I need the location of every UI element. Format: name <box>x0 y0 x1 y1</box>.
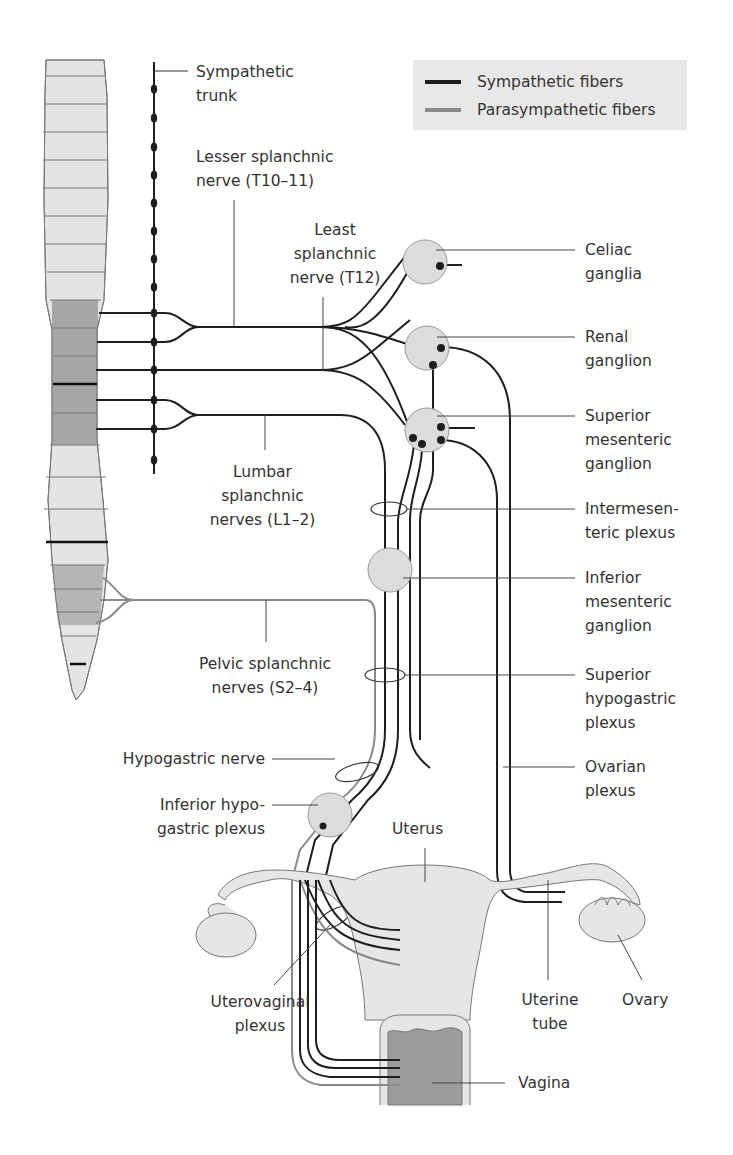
label-line: Hypogastric nerve <box>90 747 265 771</box>
parasympathetic-swatch <box>425 108 461 112</box>
label-line: splanchnic <box>195 484 330 508</box>
label-line: Pelvic splanchnic <box>185 652 345 676</box>
ganglia <box>308 240 449 837</box>
label-line: Lumbar <box>195 460 330 484</box>
label-line: nerve (T10–11) <box>196 169 333 193</box>
label-inferior-mesenteric-ganglion: Inferior mesenteric ganglion <box>585 566 672 638</box>
label-uterine-tube: Uterine tube <box>510 988 590 1036</box>
label-superior-hypogastric-plexus: Superior hypogastric plexus <box>585 663 676 735</box>
legend-label: Parasympathetic fibers <box>477 101 656 119</box>
label-superior-mesenteric-ganglion: Superior mesenteric ganglion <box>585 404 672 476</box>
label-line: ganglion <box>585 349 652 373</box>
label-line: Uterovaginal <box>195 990 325 1014</box>
label-least-splanchnic-nerve: Least splanchnic nerve (T12) <box>270 218 400 290</box>
label-line: nerve (T12) <box>270 266 400 290</box>
label-line: gastric plexus <box>130 817 265 841</box>
label-line: teric plexus <box>585 521 679 545</box>
label-line: trunk <box>196 84 294 108</box>
label-line: tube <box>510 1012 590 1036</box>
label-line: Ovarian <box>585 755 646 779</box>
label-lesser-splanchnic-nerve: Lesser splanchnic nerve (T10–11) <box>196 145 333 193</box>
label-line: hypogastric <box>585 687 676 711</box>
label-line: Uterine <box>510 988 590 1012</box>
label-line: plexus <box>195 1014 325 1038</box>
label-line: mesenteric <box>585 590 672 614</box>
label-hypogastric-nerve: Hypogastric nerve <box>90 747 265 771</box>
label-celiac-ganglia: Celiac ganglia <box>585 238 642 286</box>
label-line: Inferior hypo- <box>130 793 265 817</box>
label-line: Uterus <box>392 817 443 841</box>
label-line: ganglion <box>585 452 672 476</box>
label-inferior-hypogastric-plexus: Inferior hypo- gastric plexus <box>130 793 265 841</box>
label-intermesenteric-plexus: Intermesen- teric plexus <box>585 497 679 545</box>
label-line: Sympathetic <box>196 60 294 84</box>
label-vagina: Vagina <box>518 1071 570 1095</box>
label-uterovaginal-plexus: Uterovaginal plexus <box>195 990 325 1038</box>
label-line: mesenteric <box>585 428 672 452</box>
label-line: Inferior <box>585 566 672 590</box>
label-line: nerves (L1–2) <box>195 508 330 532</box>
label-line: Ovary <box>622 988 668 1012</box>
label-line: plexus <box>585 779 646 803</box>
label-line: splanchnic <box>270 242 400 266</box>
label-ovary: Ovary <box>622 988 668 1012</box>
label-line: Superior <box>585 663 676 687</box>
label-line: nerves (S2–4) <box>185 676 345 700</box>
label-line: Intermesen- <box>585 497 679 521</box>
label-line: Vagina <box>518 1071 570 1095</box>
label-line: plexus <box>585 711 676 735</box>
legend-label: Sympathetic fibers <box>477 73 623 91</box>
sympathetic-swatch <box>425 80 461 84</box>
sympathetic-trunk <box>151 62 188 474</box>
label-sympathetic-trunk: Sympathetic trunk <box>196 60 294 108</box>
label-line: Celiac <box>585 238 642 262</box>
label-line: ganglia <box>585 262 642 286</box>
legend: Sympathetic fibers Parasympathetic fiber… <box>413 60 687 130</box>
label-line: Least <box>270 218 400 242</box>
autonomic-innervation-female-genitalia-diagram: Sympathetic fibers Parasympathetic fiber… <box>0 0 733 1155</box>
legend-item-parasympathetic: Parasympathetic fibers <box>413 98 656 122</box>
label-lumbar-splanchnic-nerves: Lumbar splanchnic nerves (L1–2) <box>195 460 330 532</box>
label-pelvic-splanchnic-nerves: Pelvic splanchnic nerves (S2–4) <box>185 652 345 700</box>
label-ovarian-plexus: Ovarian plexus <box>585 755 646 803</box>
legend-item-sympathetic: Sympathetic fibers <box>413 70 623 94</box>
label-uterus: Uterus <box>392 817 443 841</box>
label-line: Superior <box>585 404 672 428</box>
label-line: ganglion <box>585 614 672 638</box>
label-line: Renal <box>585 325 652 349</box>
spinal-cord <box>43 60 108 700</box>
label-renal-ganglion: Renal ganglion <box>585 325 652 373</box>
label-line: Lesser splanchnic <box>196 145 333 169</box>
